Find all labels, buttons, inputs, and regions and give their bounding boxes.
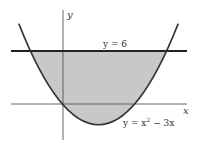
x-axis-label: x bbox=[183, 105, 189, 116]
y-axis-label: y bbox=[66, 9, 73, 20]
line-label: y = 6 bbox=[102, 39, 127, 49]
area-diagram: y x y = 6 y = x2 − 3x bbox=[0, 0, 198, 145]
curve-label: y = x2 − 3x bbox=[122, 116, 174, 128]
